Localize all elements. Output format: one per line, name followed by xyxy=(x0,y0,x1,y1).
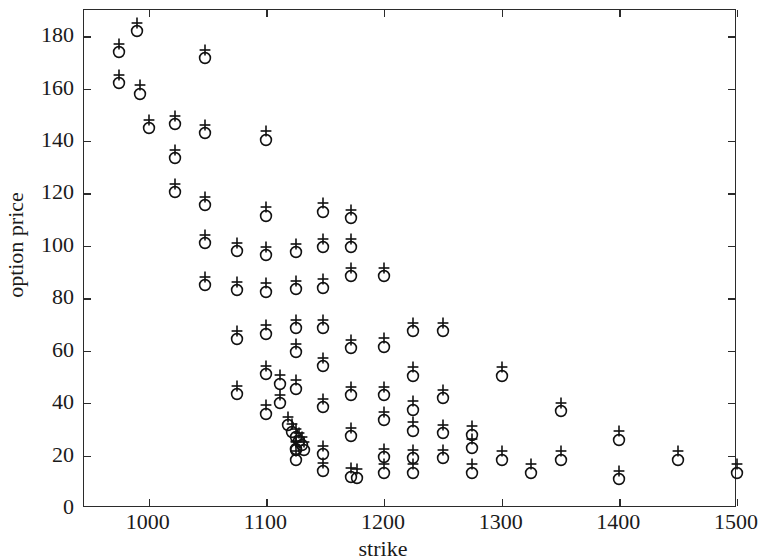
y-tick xyxy=(84,89,91,90)
y-tick xyxy=(84,456,91,457)
x-tick xyxy=(502,499,503,506)
x-tick-label: 1300 xyxy=(456,511,546,533)
y-tick-label: 60 xyxy=(0,339,74,361)
plot-area xyxy=(83,9,736,507)
y-tick-right xyxy=(728,141,735,142)
x-tick-label: 1000 xyxy=(103,511,193,533)
x-tick xyxy=(384,499,385,506)
y-tick-right xyxy=(728,403,735,404)
y-tick-label: 20 xyxy=(0,444,74,466)
y-tick-right xyxy=(728,36,735,37)
y-axis-title: option price xyxy=(3,165,29,325)
y-tick xyxy=(84,36,91,37)
y-tick-label: 0 xyxy=(0,496,74,518)
x-tick xyxy=(149,499,150,506)
y-tick-right xyxy=(728,246,735,247)
x-tick-label: 1200 xyxy=(338,511,428,533)
y-tick xyxy=(84,246,91,247)
y-tick-label: 160 xyxy=(0,77,74,99)
x-tick xyxy=(737,499,738,506)
scatter-plot-figure: 100011001200130014001500 020406080100120… xyxy=(0,0,766,558)
y-tick xyxy=(84,351,91,352)
x-tick-label: 1400 xyxy=(573,511,663,533)
x-tick-top xyxy=(149,10,150,17)
y-tick-label: 180 xyxy=(0,24,74,46)
y-tick-label: 140 xyxy=(0,129,74,151)
y-tick xyxy=(84,298,91,299)
x-tick-top xyxy=(737,10,738,17)
x-tick xyxy=(619,499,620,506)
x-tick-top xyxy=(384,10,385,17)
y-tick-label: 40 xyxy=(0,391,74,413)
y-tick xyxy=(84,403,91,404)
x-axis-title: strike xyxy=(0,536,766,558)
y-tick-right xyxy=(728,351,735,352)
y-tick-right xyxy=(728,89,735,90)
x-tick xyxy=(266,499,267,506)
y-tick xyxy=(84,141,91,142)
x-tick-top xyxy=(266,10,267,17)
y-tick-right xyxy=(728,193,735,194)
x-tick-top xyxy=(502,10,503,17)
y-tick-right xyxy=(728,298,735,299)
x-tick-label: 1500 xyxy=(691,511,766,533)
x-tick-label: 1100 xyxy=(220,511,310,533)
y-tick xyxy=(84,193,91,194)
x-tick-top xyxy=(619,10,620,17)
